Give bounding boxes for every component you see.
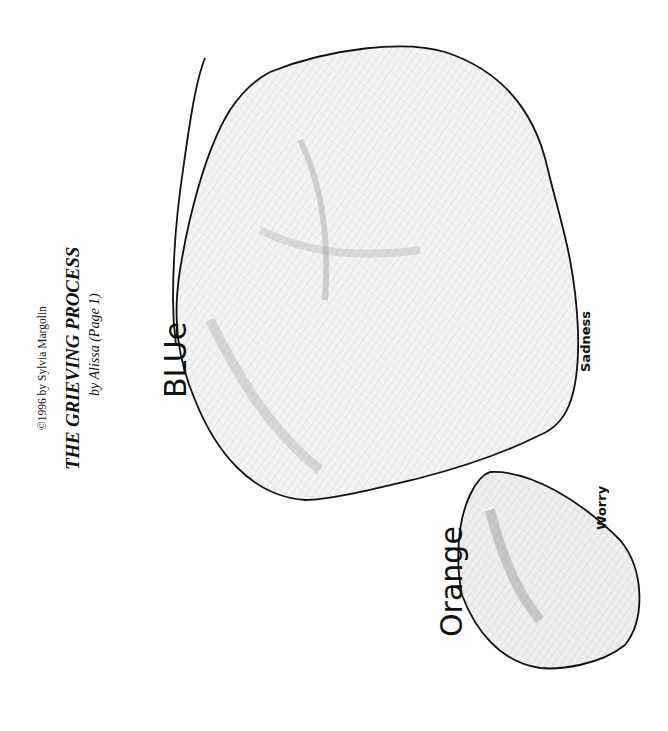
document-page: ©1996 by Sylvia Margolin THE GRIEVING PR… [0, 0, 668, 731]
small-orange-shape [458, 472, 639, 669]
label-worry: Worry [594, 485, 609, 530]
label-blue: BLUe [158, 322, 193, 398]
label-orange: Orange [434, 526, 469, 637]
large-blue-shape [176, 46, 578, 500]
label-sadness: Sadness [578, 311, 593, 372]
crayon-drawing: BLUe Sadness Orange Worry [0, 0, 668, 731]
